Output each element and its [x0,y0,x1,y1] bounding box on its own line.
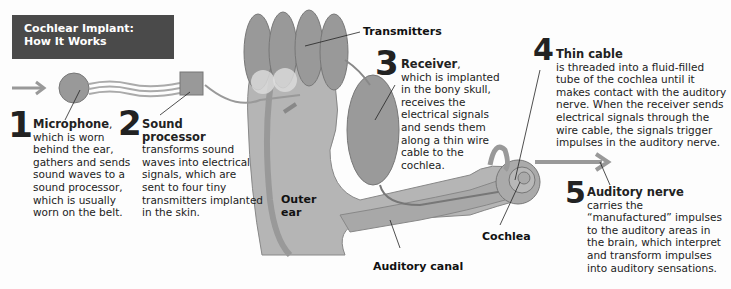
step-3-line: cable to the [401,146,500,159]
step-3-line: cochlea. [401,159,500,172]
step-4-number: 4 [533,35,554,65]
step-1-suffix: , [109,118,112,130]
step-5-line: to the auditory areas in [587,224,722,237]
step-5-heading: Auditory nerve [587,185,684,199]
step-1-line: sound processor, [33,181,130,194]
outer-ear-label-line: ear [281,206,316,219]
step-5-line: the brain, which interpret [587,236,722,249]
step-1-line: sound waves to a [33,168,130,181]
step-5-number: 5 [565,178,586,208]
step-3-line: receives the [401,96,500,109]
step-3-number: 3 [375,48,399,78]
step-3-line: along a thin wire [401,134,500,147]
outer-ear-label-line: Outer [281,193,316,206]
step-5-line: into auditory sensations. [587,262,722,275]
step-1-line: behind the ear, [33,143,130,156]
microphone-shape [59,73,89,103]
step-2-heading: processor [142,130,206,144]
step-4-line: impulses in the auditory nerve. [556,136,726,149]
step-4-line: wire cable, the signals trigger [556,124,726,137]
step-3-line: and sends them [401,121,500,134]
transmitters-label: Transmitters [363,25,442,38]
step-4-line: electrical signals through the [556,111,726,124]
step-3-callout: Receiver, which is implanted in the bony… [401,58,500,171]
step-4-line: nerve. When the receiver sends [556,98,726,111]
outer-ear-label: Outer ear [281,193,316,219]
step-2-number: 2 [118,108,142,138]
step-1-callout: Microphone, which is worn behind the ear… [33,118,130,219]
step-1-line: worn on the belt. [33,206,130,219]
step-5-line: and transform impulses [587,249,722,262]
step-1-line: gathers and sends [33,156,130,169]
step-3-heading: Receiver [401,57,457,71]
step-1-number: 1 [8,110,33,140]
step-2-line: transmitters implanted [142,194,263,207]
step-1-line: which is worn [33,131,130,144]
step-4-line: tube of the cochlea until it [556,73,726,86]
step-3-suffix: , [457,58,460,70]
step-2-line: waves into electrical [142,156,263,169]
step-1-heading: Microphone [33,117,109,131]
step-2-line: transforms sound [142,143,263,156]
step-5-line: carries the [587,199,722,212]
step-5-callout: Auditory nerve carries the “manufactured… [587,186,722,274]
step-1-line: which is usually [33,194,130,207]
step-4-line: makes contact with the auditory [556,86,726,99]
step-2-line: sent to four tiny [142,181,263,194]
sound-processor-shape [180,72,203,95]
step-2-line: signals, which are [142,168,263,181]
step-5-line: “manufactured” impulses [587,211,722,224]
step-4-heading: Thin cable [556,47,623,61]
auditory-canal-label: Auditory canal [373,260,463,273]
cochlea-label: Cochlea [482,230,531,243]
step-3-line: which is implanted [401,71,500,84]
step-3-line: in the bony skull, [401,83,500,96]
step-2-callout: Sound processor transforms sound waves i… [142,118,263,219]
step-3-line: electrical signals [401,108,500,121]
step-4-callout: Thin cable is threaded into a fluid-fill… [556,48,726,149]
step-4-line: is threaded into a fluid-filled [556,61,726,74]
step-2-line: in the skin. [142,206,263,219]
